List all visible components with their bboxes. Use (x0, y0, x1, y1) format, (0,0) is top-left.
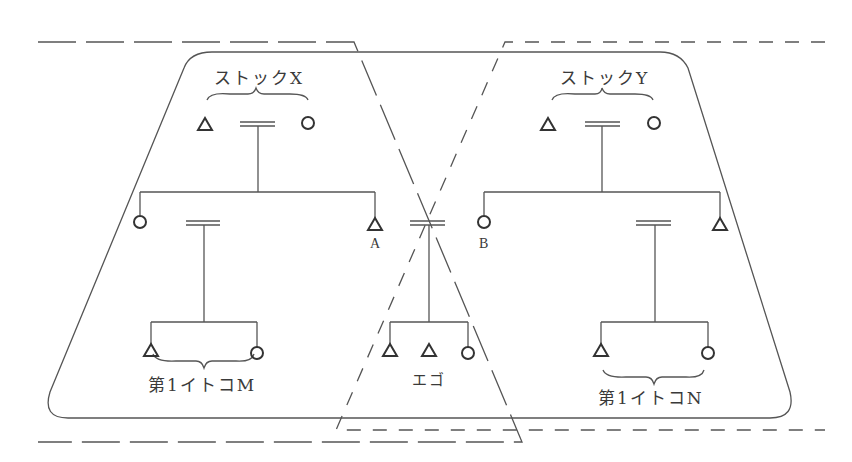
male-triangle-icon (368, 218, 382, 230)
label-b: B (479, 236, 488, 252)
female-circle-icon (134, 216, 146, 228)
female-circle-icon (302, 117, 314, 129)
kinship-diagram (0, 0, 852, 462)
ego-triangle-icon (422, 344, 436, 356)
label-ego: エゴ (412, 368, 446, 389)
female-circle-icon (478, 216, 490, 228)
left-kin-group-outline (38, 42, 522, 442)
label-stock-x: ストックX (214, 64, 304, 89)
label-cousin-n: 第1イトコN (598, 384, 704, 409)
label-a: A (370, 236, 380, 252)
male-triangle-icon (713, 218, 727, 230)
female-circle-icon (648, 117, 660, 129)
label-cousin-m: 第1イトコM (148, 371, 256, 396)
right-kin-group-outline (336, 42, 825, 430)
female-circle-icon (251, 347, 263, 359)
female-circle-icon (462, 347, 474, 359)
male-triangle-icon (198, 118, 212, 130)
male-triangle-icon (541, 118, 555, 130)
male-triangle-icon (144, 344, 158, 356)
brace-cousin-m (153, 354, 254, 368)
male-triangle-icon (383, 344, 397, 356)
label-stock-y: ストックY (560, 64, 649, 89)
brace-cousin-n (603, 370, 704, 384)
kindred-boundary (48, 52, 791, 418)
male-triangle-icon (594, 344, 608, 356)
brace-stock-y (552, 88, 653, 100)
brace-stock-x (207, 88, 308, 100)
female-circle-icon (702, 347, 714, 359)
